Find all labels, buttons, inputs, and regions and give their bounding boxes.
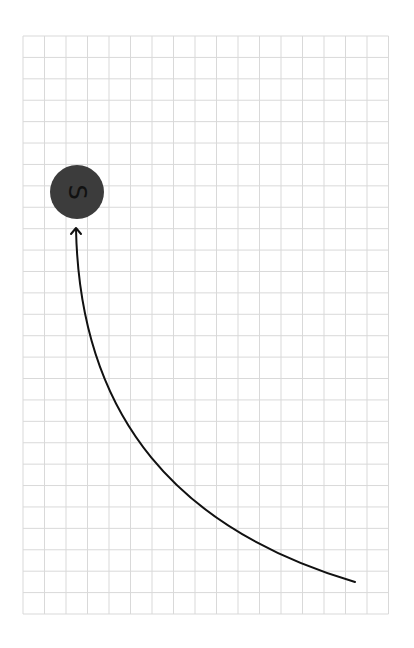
node-s-label: S <box>63 184 91 199</box>
diagram-canvas: S <box>0 0 414 648</box>
curved-arrow-path <box>76 229 355 582</box>
grid-lines <box>23 36 389 614</box>
